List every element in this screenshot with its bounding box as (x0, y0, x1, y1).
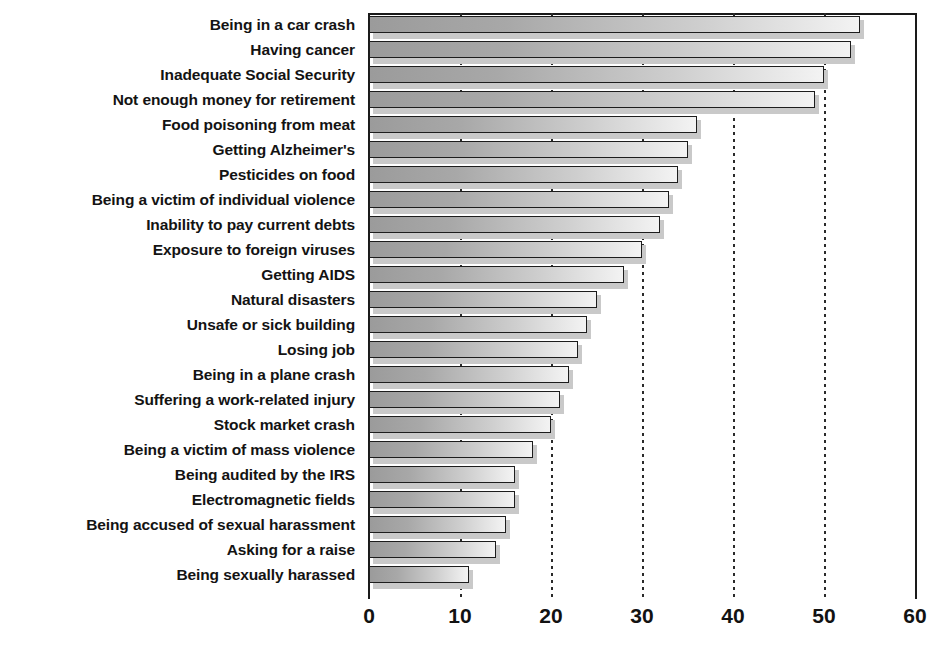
category-label: Being in a car crash (0, 16, 355, 34)
bar (369, 141, 688, 160)
category-label: Not enough money for retirement (0, 91, 355, 109)
bar-fill (369, 541, 496, 558)
category-label: Electromagnetic fields (0, 491, 355, 509)
bar (369, 491, 515, 510)
category-label: Being a victim of mass violence (0, 441, 355, 459)
category-label: Unsafe or sick building (0, 316, 355, 334)
x-tick-label-10: 10 (430, 604, 490, 628)
plot-area: Being in a car crashHaving cancerInadequ… (0, 0, 947, 600)
bar (369, 241, 642, 260)
bar-fill (369, 366, 569, 383)
category-label: Being a victim of individual violence (0, 191, 355, 209)
category-label: Suffering a work-related injury (0, 391, 355, 409)
bar-fill (369, 566, 469, 583)
bar-row: Suffering a work-related injury (0, 389, 947, 414)
bar (369, 66, 824, 85)
category-label: Having cancer (0, 41, 355, 59)
bar-fill (369, 516, 506, 533)
bar (369, 16, 860, 35)
bar-row: Electromagnetic fields (0, 489, 947, 514)
category-label: Natural disasters (0, 291, 355, 309)
bar-row: Having cancer (0, 39, 947, 64)
bar-row: Not enough money for retirement (0, 89, 947, 114)
bar (369, 291, 597, 310)
bar-row: Stock market crash (0, 414, 947, 439)
category-label: Food poisoning from meat (0, 116, 355, 134)
bar-fill (369, 316, 587, 333)
bar (369, 41, 851, 60)
bar-chart: Being in a car crashHaving cancerInadequ… (0, 0, 947, 645)
category-label: Asking for a raise (0, 541, 355, 559)
bar-fill (369, 241, 642, 258)
bar-row: Asking for a raise (0, 539, 947, 564)
bar-row: Being sexually harassed (0, 564, 947, 589)
category-label: Getting AIDS (0, 266, 355, 284)
category-label: Being audited by the IRS (0, 466, 355, 484)
bar-row: Being in a car crash (0, 14, 947, 39)
bar (369, 541, 496, 560)
bar (369, 366, 569, 385)
bar-row: Getting Alzheimer's (0, 139, 947, 164)
bar-row: Unsafe or sick building (0, 314, 947, 339)
bar-row: Natural disasters (0, 289, 947, 314)
bar (369, 91, 815, 110)
x-tick-label-20: 20 (521, 604, 581, 628)
category-label: Inability to pay current debts (0, 216, 355, 234)
category-label: Being sexually harassed (0, 566, 355, 584)
bar-fill (369, 491, 515, 508)
bar-fill (369, 141, 688, 158)
bar-row: Food poisoning from meat (0, 114, 947, 139)
category-label: Being accused of sexual harassment (0, 516, 355, 534)
bar-fill (369, 216, 660, 233)
bar-fill (369, 41, 851, 58)
bar-row: Being accused of sexual harassment (0, 514, 947, 539)
bar (369, 191, 669, 210)
bar-fill (369, 116, 697, 133)
category-label: Being in a plane crash (0, 366, 355, 384)
bar-row: Being a victim of individual violence (0, 189, 947, 214)
bar-fill (369, 166, 678, 183)
bar (369, 516, 506, 535)
bar-fill (369, 466, 515, 483)
category-label: Exposure to foreign viruses (0, 241, 355, 259)
bar-row: Being a victim of mass violence (0, 439, 947, 464)
bar-row: Exposure to foreign viruses (0, 239, 947, 264)
bar-row: Inability to pay current debts (0, 214, 947, 239)
bar (369, 566, 469, 585)
category-label: Pesticides on food (0, 166, 355, 184)
x-tick-label-60: 60 (885, 604, 945, 628)
bar (369, 391, 560, 410)
category-label: Getting Alzheimer's (0, 141, 355, 159)
bar-row: Being in a plane crash (0, 364, 947, 389)
bar (369, 116, 697, 135)
x-tick-label-30: 30 (612, 604, 672, 628)
bar (369, 341, 578, 360)
bar-fill (369, 391, 560, 408)
bar (369, 316, 587, 335)
x-tick-label-0: 0 (339, 604, 399, 628)
bar (369, 441, 533, 460)
bar (369, 266, 624, 285)
bar-row: Inadequate Social Security (0, 64, 947, 89)
bar-fill (369, 91, 815, 108)
bar-fill (369, 66, 824, 83)
category-label: Inadequate Social Security (0, 66, 355, 84)
category-label: Stock market crash (0, 416, 355, 434)
bar (369, 216, 660, 235)
bar-row: Being audited by the IRS (0, 464, 947, 489)
bar-row: Getting AIDS (0, 264, 947, 289)
bar (369, 166, 678, 185)
bar (369, 416, 551, 435)
bar-fill (369, 291, 597, 308)
x-tick-label-40: 40 (703, 604, 763, 628)
x-tick-label-50: 50 (794, 604, 854, 628)
bar-row: Pesticides on food (0, 164, 947, 189)
bar-row: Losing job (0, 339, 947, 364)
x-axis-tick-labels: 0102030405060 (0, 604, 947, 642)
bar (369, 466, 515, 485)
bar-fill (369, 16, 860, 33)
bar-fill (369, 416, 551, 433)
bar-fill (369, 191, 669, 208)
bar-fill (369, 341, 578, 358)
bar-fill (369, 266, 624, 283)
